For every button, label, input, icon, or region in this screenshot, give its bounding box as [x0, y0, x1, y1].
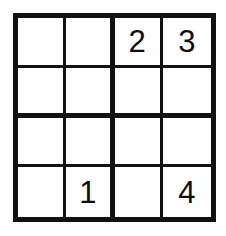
grid-cell-r4c2[interactable]: 1 — [66, 167, 114, 217]
grid-cell-r1c1[interactable] — [18, 18, 66, 68]
grid-cell-r4c3[interactable] — [115, 167, 163, 217]
grid-cell-r2c4[interactable] — [163, 68, 211, 118]
cell-value: 1 — [79, 177, 96, 208]
grid-cell-r3c2[interactable] — [66, 118, 114, 168]
cell-value: 3 — [178, 26, 195, 57]
grid-cell-r2c3[interactable] — [115, 68, 163, 118]
grid-cell-r3c3[interactable] — [115, 118, 163, 168]
grid-cell-r1c2[interactable] — [66, 18, 114, 68]
sudoku-grid: 2 3 — [13, 13, 216, 222]
cell-value: 2 — [129, 26, 146, 57]
grid-cell-r1c4[interactable]: 3 — [163, 18, 211, 68]
cell-value: 4 — [178, 177, 195, 208]
puzzle-root: 2 3 — [0, 0, 226, 236]
grid-cell-r1c3[interactable]: 2 — [115, 18, 163, 68]
grid-cell-r3c1[interactable] — [18, 118, 66, 168]
grid-cell-r2c1[interactable] — [18, 68, 66, 118]
grid-cell-r3c4[interactable] — [163, 118, 211, 168]
grid-cell-r4c1[interactable] — [18, 167, 66, 217]
grid-cell-r4c4[interactable]: 4 — [163, 167, 211, 217]
grid-cell-r2c2[interactable] — [66, 68, 114, 118]
